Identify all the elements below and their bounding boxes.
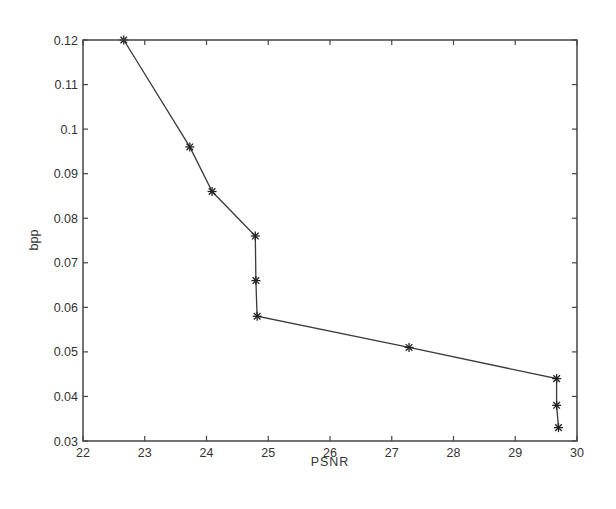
x-tick-label: 30 [570,446,584,460]
asterisk-marker [554,423,563,432]
x-tick-label: 22 [76,446,90,460]
x-tick-label: 25 [261,446,275,460]
x-tick-label: 24 [200,446,214,460]
x-tick-label: 29 [508,446,522,460]
x-tick-label: 23 [138,446,152,460]
plot-area [83,40,577,441]
x-tick-label: 27 [385,446,399,460]
y-tick-label: 0.06 [54,301,78,315]
asterisk-marker [208,187,217,196]
y-tick-label: 0.04 [54,390,78,404]
asterisk-marker [251,276,260,285]
x-tick-label: 28 [447,446,461,460]
x-axis-label: PSNR [311,455,350,469]
asterisk-marker [552,374,561,383]
asterisk-marker [552,401,561,410]
asterisk-marker [185,142,194,151]
chart-canvas: 222324252627282930 0.030.040.050.060.070… [0,0,616,509]
y-tick-label: 0.1 [61,123,78,137]
y-tick-labels: 0.030.040.050.060.070.080.090.10.110.12 [54,34,78,449]
asterisk-marker [251,232,260,241]
asterisk-marker [253,312,262,321]
y-tick-label: 0.07 [54,256,78,270]
y-tick-label: 0.05 [54,345,78,359]
asterisk-marker [405,343,414,352]
y-tick-label: 0.08 [54,212,78,226]
y-tick-label: 0.09 [54,167,78,181]
y-tick-label: 0.03 [54,435,78,449]
y-tick-label: 0.12 [54,34,78,48]
y-tick-label: 0.11 [55,78,78,92]
y-axis-label: bpp [27,230,41,251]
